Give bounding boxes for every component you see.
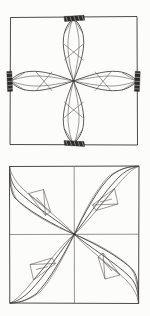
rosette-center-point [72, 80, 74, 82]
arm-lower-right [74, 234, 138, 303]
tip-marker-down [64, 141, 85, 147]
pinwheel-svg [0, 158, 150, 316]
petal-right [74, 71, 137, 91]
arm-upper-right [74, 166, 138, 234]
arm-lower-left [10, 234, 74, 303]
tip-marker-left [7, 71, 13, 91]
tip-marker-right [134, 71, 140, 91]
page-canvas [0, 0, 150, 316]
petal-left [11, 71, 74, 91]
arm-upper-left [10, 166, 75, 234]
tip-marker-up [64, 15, 85, 21]
petal-up [63, 19, 83, 81]
figure-top-four-petal-rosette [0, 0, 150, 158]
rosette-svg [0, 0, 150, 158]
figure-bottom-four-arm-pinwheel [0, 158, 150, 316]
petal-down [63, 81, 83, 143]
pinwheel-center-point [73, 233, 75, 235]
